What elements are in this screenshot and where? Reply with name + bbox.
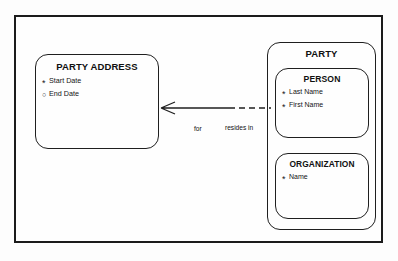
entity-party-address[interactable]: PARTY ADDRESS * Start Date ○ End Date xyxy=(35,54,159,149)
relationship-line[interactable] xyxy=(159,95,271,125)
entity-title-party: PARTY xyxy=(268,48,375,59)
attribute-last-name: * Last Name xyxy=(282,88,368,98)
entity-title-party-address: PARTY ADDRESS xyxy=(36,61,158,72)
attribute-label: Start Date xyxy=(49,77,81,85)
attribute-end-date: ○ End Date xyxy=(42,90,158,100)
attribute-label: Last Name xyxy=(289,88,323,96)
mandatory-marker-icon: * xyxy=(282,102,289,112)
attribute-start-date: * Start Date xyxy=(42,77,158,87)
mandatory-marker-icon: * xyxy=(42,78,49,88)
entity-title-organization: ORGANIZATION xyxy=(276,159,368,169)
attribute-first-name: * First Name xyxy=(282,101,368,111)
relationship-label-resides-in: resides in xyxy=(225,124,253,131)
attribute-name: * Name xyxy=(282,173,368,183)
diagram-canvas: PARTY ADDRESS * Start Date ○ End Date PA… xyxy=(0,0,398,261)
mandatory-marker-icon: * xyxy=(282,89,289,99)
entity-title-person: PERSON xyxy=(276,74,368,84)
attribute-list-person: * Last Name * First Name xyxy=(282,88,368,111)
attribute-label: Name xyxy=(289,173,308,181)
attribute-list-party-address: * Start Date ○ End Date xyxy=(42,77,158,100)
optional-marker-icon: ○ xyxy=(42,90,49,100)
entity-organization[interactable]: ORGANIZATION * Name xyxy=(275,153,369,219)
entity-party[interactable]: PARTY PERSON * Last Name * First Name xyxy=(267,42,376,230)
attribute-label: First Name xyxy=(289,101,323,109)
crows-foot-icon xyxy=(161,102,175,114)
attribute-label: End Date xyxy=(49,90,79,98)
mandatory-marker-icon: * xyxy=(282,174,289,184)
attribute-list-organization: * Name xyxy=(282,173,368,183)
diagram-frame: PARTY ADDRESS * Start Date ○ End Date PA… xyxy=(14,15,383,243)
entity-person[interactable]: PERSON * Last Name * First Name xyxy=(275,68,369,138)
relationship-label-for: for xyxy=(194,125,202,132)
